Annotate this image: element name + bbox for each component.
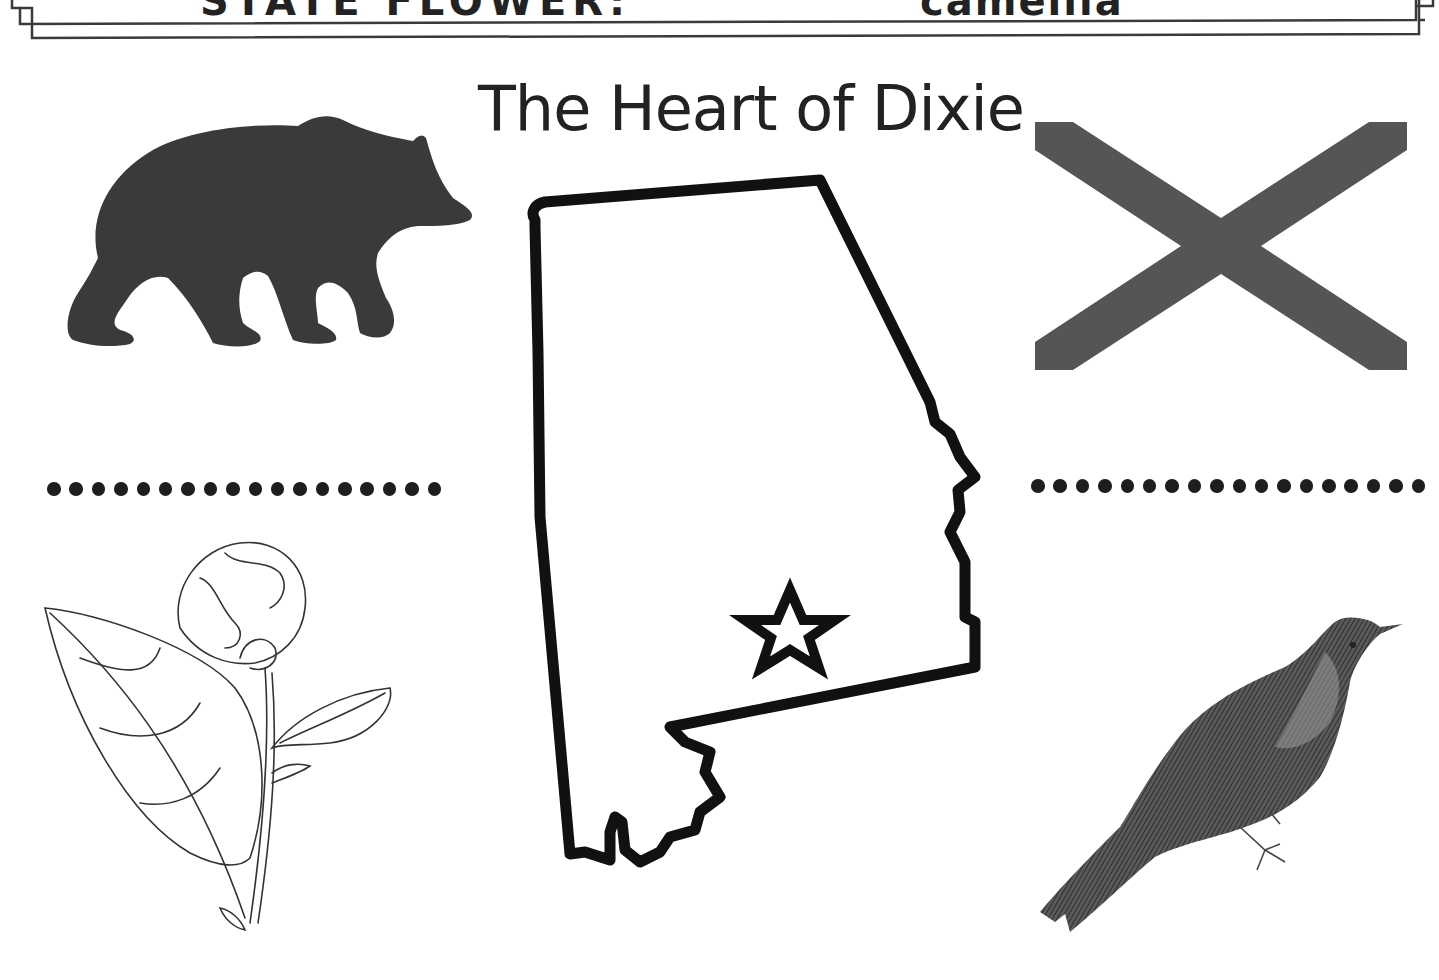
state-map-outline xyxy=(510,172,990,884)
writing-line-right xyxy=(1031,479,1425,493)
page-title: The Heart of Dixie xyxy=(478,72,988,145)
flower-icon xyxy=(40,538,400,938)
state-flower-label: STATE FLOWER: xyxy=(200,0,631,24)
bird-icon xyxy=(1035,612,1410,942)
header-frame: STATE FLOWER: camellia xyxy=(0,0,1439,45)
writing-line-left xyxy=(47,482,441,496)
flag-icon xyxy=(1035,122,1407,370)
state-flower-answer: camellia xyxy=(920,0,1124,24)
bear-icon xyxy=(38,108,478,358)
